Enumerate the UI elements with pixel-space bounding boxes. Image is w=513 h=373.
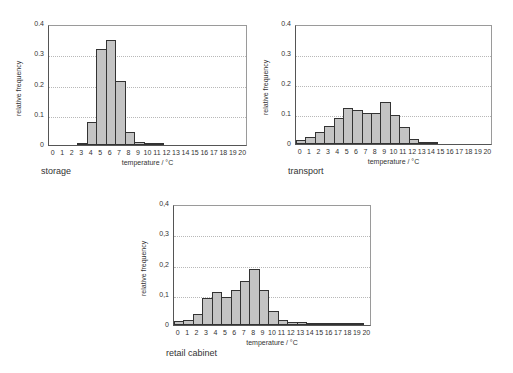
y-tick-label: 0,4: [149, 200, 169, 207]
y-tick-label: 0.2: [24, 81, 44, 88]
x-axis-label: temperature / °C: [48, 159, 247, 166]
y-axis-label: relative frequency: [15, 60, 22, 115]
y-tick-label: 0: [149, 321, 169, 328]
y-tick-label: 0: [24, 141, 44, 148]
x-tick-label: 20: [237, 149, 247, 156]
gridline: [49, 87, 246, 88]
plot-area: [48, 25, 247, 146]
y-tick-label: 0,2: [149, 261, 169, 268]
histogram-bar: [153, 143, 163, 145]
y-tick-label: 0.1: [271, 110, 291, 117]
y-tick-label: 0.1: [24, 111, 44, 118]
x-axis-label: temperature / °C: [295, 158, 492, 165]
y-tick-label: 0.4: [24, 20, 44, 27]
transport-caption: transport: [288, 166, 324, 176]
x-axis-label: temperature / °C: [173, 339, 371, 346]
y-tick-label: 0.2: [271, 80, 291, 87]
histogram-bar: [427, 142, 437, 144]
retail-cabinet-caption: retail cabinet: [166, 348, 217, 358]
x-tick-label: 20: [361, 329, 371, 336]
y-tick-label: 0,3: [149, 230, 169, 237]
y-tick-label: 0: [271, 140, 291, 147]
y-tick-label: 0.4: [271, 20, 291, 27]
gridline: [174, 236, 370, 237]
y-tick-label: 0.3: [271, 50, 291, 57]
y-axis-label: relative frequency: [140, 240, 147, 295]
plot-area: [173, 205, 371, 326]
x-tick-label: 20: [482, 148, 492, 155]
gridline: [174, 267, 370, 268]
gridline: [296, 56, 491, 57]
y-axis-label: relative frequency: [262, 60, 269, 115]
gridline: [49, 117, 246, 118]
plot-area: [295, 25, 492, 145]
gridline: [296, 86, 491, 87]
y-tick-label: 0.3: [24, 50, 44, 57]
y-tick-label: 0,1: [149, 291, 169, 298]
histogram-bar: [353, 323, 363, 325]
storage-caption: storage: [41, 166, 71, 176]
gridline: [49, 56, 246, 57]
